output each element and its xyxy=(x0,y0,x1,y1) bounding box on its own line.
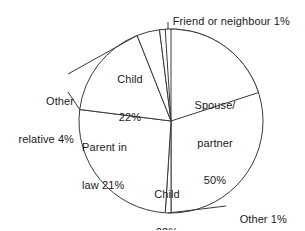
slice-label-child-lower: Child 22% xyxy=(140,163,194,230)
pie-chart: Friend or neighbour 1% Other relative 4%… xyxy=(0,0,305,230)
slice-label-child-lower-line2: 22% xyxy=(140,226,194,231)
slice-label-child-lower-line1: Child xyxy=(140,188,194,201)
slice-label-friend-or-neighbour: Friend or neighbour 1% xyxy=(145,2,305,40)
slice-label-other-bottom: Other 1% xyxy=(227,200,305,230)
slice-label-friend-or-neighbour-text: Friend or neighbour 1% xyxy=(173,15,290,27)
slice-label-other-relative: Other relative 4% xyxy=(2,70,74,170)
slice-label-spouse-partner-line1: Spouse/ xyxy=(184,99,246,112)
slice-label-child-upper-line1: Child xyxy=(103,73,157,86)
slice-label-spouse-partner-line2: partner xyxy=(184,137,246,150)
slice-label-other-relative-line1: Other xyxy=(2,95,74,108)
slice-label-other-relative-line2: relative 4% xyxy=(2,133,74,146)
slice-label-parent-in-law-line1: Parent in xyxy=(82,141,152,154)
slice-label-other-bottom-text: Other 1% xyxy=(240,213,287,225)
